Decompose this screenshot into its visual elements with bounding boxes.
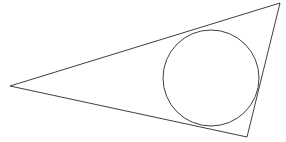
geometry-figure-svg [0, 0, 286, 142]
figure-canvas [0, 0, 286, 142]
inscribed-circle [163, 30, 259, 126]
